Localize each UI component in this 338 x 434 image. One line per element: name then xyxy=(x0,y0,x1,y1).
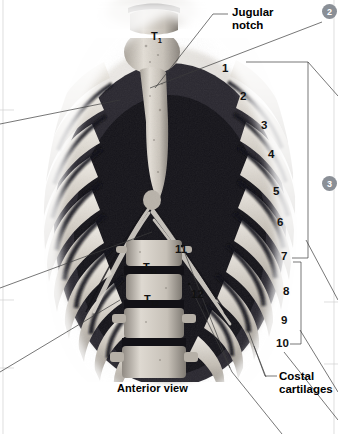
rib-label-7: 7 xyxy=(281,250,287,263)
vertebra-letter: T xyxy=(143,261,150,273)
rib-label-9: 9 xyxy=(281,314,287,327)
rib-label-12: 12 xyxy=(191,288,204,301)
vertebra-letter: T xyxy=(144,293,151,305)
figure-caption: Anterior view xyxy=(117,382,188,394)
vertebra-label-t12: T12 xyxy=(144,281,159,309)
rib-label-11: 11 xyxy=(175,243,187,256)
rib-label-2: 2 xyxy=(240,90,246,103)
rib-label-10: 10 xyxy=(276,337,289,350)
section-badge-3[interactable]: 3 xyxy=(322,176,337,191)
thoracic-cage-figure: Jugular notch Costal cartilages 1 2 3 4 … xyxy=(0,0,338,434)
vertebra-number: 12 xyxy=(151,300,159,309)
vertebra-number: 1 xyxy=(158,37,162,46)
vertebra-label-t11: T11 xyxy=(143,249,158,277)
rib-label-5: 5 xyxy=(273,185,279,198)
section-badge-2[interactable]: 2 xyxy=(322,4,337,19)
callout-jugular-notch: Jugular notch xyxy=(232,6,274,32)
leader-lines xyxy=(0,0,338,434)
rib-label-4: 4 xyxy=(268,148,274,161)
rib-label-3: 3 xyxy=(261,119,267,132)
rib-label-1: 1 xyxy=(222,62,228,75)
vertebra-number: 11 xyxy=(150,268,158,277)
rib-label-6: 6 xyxy=(277,216,283,229)
vertebra-letter: T xyxy=(151,30,158,42)
rib-label-8: 8 xyxy=(283,285,289,298)
callout-costal-cartilages: Costal cartilages xyxy=(279,370,333,396)
vertebra-label-t1: T1 xyxy=(151,18,162,46)
